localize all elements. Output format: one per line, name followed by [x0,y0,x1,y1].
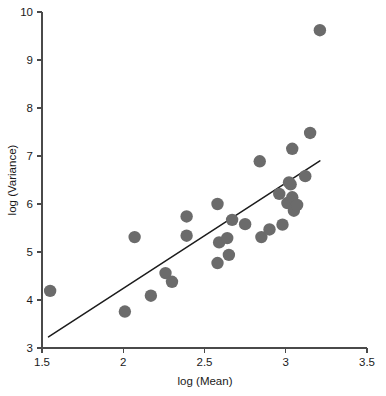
x-tick-label: 3 [283,356,289,368]
data-point [211,198,223,210]
data-point [304,127,316,139]
y-tick-labels-group: 345678910 [20,6,33,354]
scatter-plot-figure: 345678910 1.522.533.5 log (Mean) log (Va… [0,0,386,396]
data-point [180,210,192,222]
y-tick-label: 7 [27,150,33,162]
data-points-group [44,24,326,318]
data-point [211,257,223,269]
data-point [119,305,131,317]
x-tick-label: 2 [120,356,126,368]
y-axis-title: log (Variance) [6,144,18,215]
y-tick-label: 10 [20,6,33,18]
y-tick-label: 9 [27,54,33,66]
data-point [263,223,275,235]
x-tick-label: 1.5 [34,356,50,368]
data-point [226,214,238,226]
y-tick-label: 3 [27,342,33,354]
data-point [221,232,233,244]
x-tick-labels-group: 1.522.533.5 [34,356,375,368]
x-axis-title: log (Mean) [178,375,233,387]
data-point [286,143,298,155]
data-point [284,178,296,190]
data-point [180,229,192,241]
data-point [276,218,288,230]
data-point [291,199,303,211]
regression-line-group [49,161,320,337]
tick-marks-group [37,12,367,353]
data-point [223,249,235,261]
y-tick-label: 6 [27,198,33,210]
x-tick-label: 2.5 [197,356,213,368]
data-point [239,218,251,230]
x-tick-label: 3.5 [359,356,375,368]
data-point [44,285,56,297]
y-tick-label: 5 [27,246,33,258]
data-point [314,24,326,36]
y-tick-label: 8 [27,102,33,114]
data-point [128,231,140,243]
data-point [254,155,266,167]
axes-group [42,12,367,348]
y-tick-label: 4 [27,294,34,306]
regression-line [49,161,320,337]
data-point [299,170,311,182]
data-point [145,289,157,301]
data-point [166,276,178,288]
chart-canvas: 345678910 1.522.533.5 log (Mean) log (Va… [0,0,386,396]
